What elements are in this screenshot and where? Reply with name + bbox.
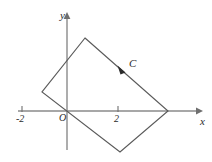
origin-label: O (59, 113, 66, 123)
x-axis-label: x (200, 116, 205, 127)
x-tick-label-neg2: -2 (16, 114, 24, 124)
figure-canvas: y x O -2 2 C (0, 0, 212, 162)
curve-c-group (42, 38, 168, 152)
curve-c-path (42, 38, 168, 152)
curve-label-c: C (129, 58, 136, 69)
y-axis-group (64, 12, 71, 150)
x-tick-label-2: 2 (114, 114, 119, 124)
diagram-svg (0, 0, 212, 162)
y-axis-label: y (60, 10, 65, 21)
x-axis-arrowhead (196, 108, 203, 115)
x-axis-group (18, 106, 203, 114)
